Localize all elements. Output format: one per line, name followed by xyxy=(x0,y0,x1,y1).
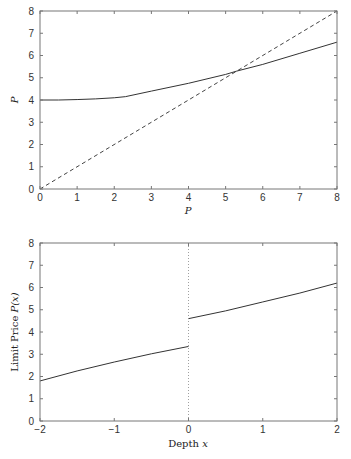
y-tick-label: 2 xyxy=(28,139,34,150)
y-tick-label: 7 xyxy=(28,260,34,271)
x-tick-label: 2 xyxy=(111,192,117,203)
y-tick-label: 5 xyxy=(28,72,34,83)
y-tick-label: 4 xyxy=(28,95,34,106)
y-tick-label: 1 xyxy=(28,161,34,172)
x-tick-label: 7 xyxy=(297,192,303,203)
top-chart: 012345678012345678 xyxy=(28,6,340,204)
figure: 012345678012345678 −2−1012012345678 P P … xyxy=(0,0,351,459)
bottom-chart: −2−1012012345678 xyxy=(28,238,340,436)
y-tick-label: 0 xyxy=(28,416,34,427)
series-mapping xyxy=(40,42,337,100)
x-tick-label: 8 xyxy=(334,192,340,203)
series-45-degree-line xyxy=(40,11,337,189)
y-tick-label: 5 xyxy=(28,304,34,315)
y-tick-label: 0 xyxy=(28,184,34,195)
top-y-axis-label: P xyxy=(9,96,20,104)
x-tick-label: 6 xyxy=(260,192,266,203)
series-p-x-bid-side xyxy=(40,346,189,380)
y-tick-label: 6 xyxy=(28,282,34,293)
series-p-x-ask-side xyxy=(189,283,338,319)
x-tick-label: 4 xyxy=(186,192,192,203)
top-x-axis-label: P xyxy=(184,205,192,216)
y-tick-label: 7 xyxy=(28,28,34,39)
y-tick-label: 2 xyxy=(28,371,34,382)
y-tick-label: 3 xyxy=(28,349,34,360)
x-tick-label: 5 xyxy=(223,192,229,203)
y-tick-label: 6 xyxy=(28,50,34,61)
x-tick-label: −1 xyxy=(109,424,121,435)
x-tick-label: −2 xyxy=(34,424,46,435)
bottom-y-axis-label: Limit Price P(x) xyxy=(9,292,20,371)
x-tick-label: 0 xyxy=(186,424,192,435)
x-tick-label: 1 xyxy=(260,424,266,435)
y-tick-label: 8 xyxy=(28,238,34,249)
y-tick-label: 4 xyxy=(28,327,34,338)
y-tick-label: 1 xyxy=(28,393,34,404)
x-tick-label: 3 xyxy=(149,192,155,203)
bottom-x-axis-label: Depth x xyxy=(168,438,208,449)
y-tick-label: 8 xyxy=(28,6,34,17)
y-tick-label: 3 xyxy=(28,117,34,128)
plot-frame xyxy=(40,243,337,421)
x-tick-label: 2 xyxy=(334,424,340,435)
x-tick-label: 0 xyxy=(37,192,43,203)
x-tick-label: 1 xyxy=(74,192,80,203)
